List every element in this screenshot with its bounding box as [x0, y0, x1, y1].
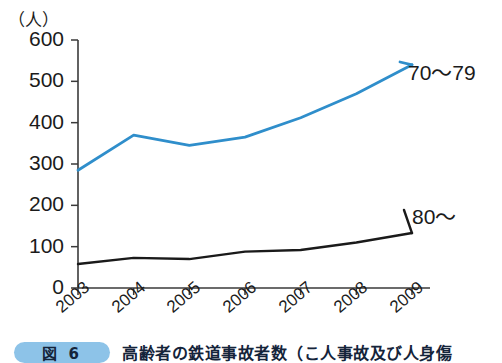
y-tick-label: 0	[2, 275, 64, 299]
series-line-0	[78, 65, 412, 170]
y-tick-label: 600	[2, 27, 64, 51]
y-tick-label: 500	[2, 68, 64, 92]
y-axis-ticks	[71, 40, 78, 288]
y-tick-label: 300	[2, 151, 64, 175]
y-tick-label: 400	[2, 110, 64, 134]
series-leader-line-1	[404, 210, 412, 233]
series-label-80-plus: 80～	[412, 200, 456, 230]
y-tick-label: 200	[2, 192, 64, 216]
figure-number-badge: 図 6	[14, 342, 110, 363]
data-series-group	[78, 62, 412, 264]
figure-caption: 図 6 高齢者の鉄道事故者数（こ人事故及び人身傷	[0, 341, 502, 363]
figure-caption-text: 高齢者の鉄道事故者数（こ人事故及び人身傷	[122, 341, 452, 363]
series-label-70-79: 70～79	[408, 56, 476, 86]
y-tick-label: 100	[2, 234, 64, 258]
series-line-1	[78, 233, 412, 264]
